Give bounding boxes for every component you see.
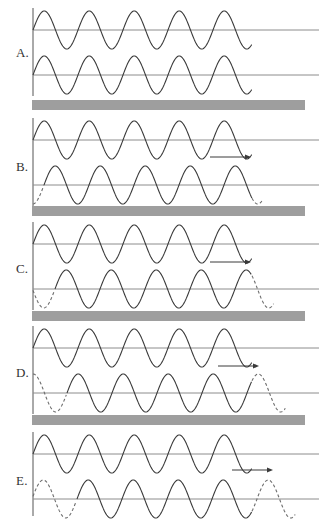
wave-diagram-svg	[0, 0, 319, 520]
wave-dashed-lead	[33, 290, 55, 308]
shift-direction-arrow-head	[253, 363, 259, 368]
panel-label-a: A.	[16, 46, 29, 59]
wave-dashed-trail	[252, 276, 274, 308]
panel-a	[33, 8, 319, 96]
panel-label-d: D.	[16, 366, 29, 379]
panel-label-e: E.	[16, 474, 28, 487]
panel-label-b: B.	[16, 160, 28, 173]
shift-direction-arrow-head	[267, 467, 273, 472]
panel-e	[33, 432, 319, 518]
wave-dashed-trail	[252, 198, 263, 204]
wave-dashed-lead	[33, 186, 44, 204]
figure-canvas: A.B.C.D.E.	[0, 0, 319, 520]
separator-bar-4	[32, 415, 305, 425]
panel-d	[33, 326, 319, 414]
separator-bar-1	[32, 100, 305, 110]
panel-c	[33, 222, 319, 310]
panel-b	[33, 118, 319, 206]
separator-bar-3	[32, 311, 305, 321]
panel-label-c: C.	[16, 262, 28, 275]
separator-bar-2	[32, 206, 305, 216]
